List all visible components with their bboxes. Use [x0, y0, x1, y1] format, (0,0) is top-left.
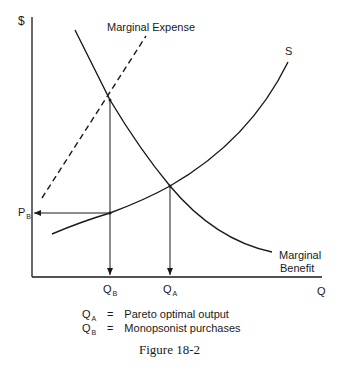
figure-caption: Figure 18-2: [0, 342, 339, 358]
pb-label: PB: [18, 207, 31, 218]
marginal-benefit-curve: [75, 30, 272, 252]
legend-item-qb: QB = Monopsonist purchases: [82, 323, 241, 334]
x-axis-label: Q: [317, 286, 326, 297]
y-axis-label: $: [18, 15, 25, 27]
legend-item-qa: QA = Pareto optimal output: [82, 309, 229, 320]
intersection-me-mb: [109, 99, 112, 102]
marginal-expense-label: Marginal Expense: [107, 22, 195, 33]
marginal-expense-curve: [42, 36, 146, 198]
marginal-benefit-label-2: Benefit: [280, 263, 314, 274]
qa-label: QA: [163, 284, 177, 295]
supply-label: S: [285, 46, 292, 57]
intersection-s-qb: [109, 212, 112, 215]
qb-label: QB: [103, 284, 117, 295]
marginal-benefit-label-1: Marginal: [279, 250, 321, 261]
intersection-s-mb: [169, 185, 172, 188]
